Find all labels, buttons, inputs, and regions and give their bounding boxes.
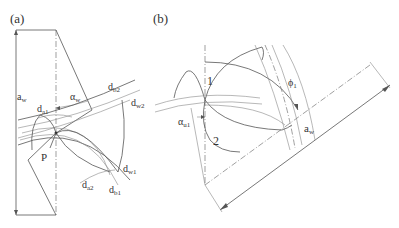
- arrow-icon: [382, 85, 390, 92]
- gear-1-circle-3: [205, 105, 285, 125]
- panel-b-label: (b): [153, 11, 168, 26]
- label-phi1: ϕ1: [288, 77, 297, 90]
- label-p: P: [41, 151, 47, 163]
- label-da1: da1: [37, 103, 49, 116]
- label-alpha-u1: αu1: [178, 116, 191, 129]
- panel-a: (a) aw αw da1 db: [10, 11, 145, 215]
- pressure-angle-arc: [56, 101, 88, 108]
- arrow-icon: [220, 203, 228, 210]
- label-gear-2: 2: [213, 134, 219, 148]
- label-db2: db2: [108, 81, 121, 94]
- label-da2: da2: [82, 179, 94, 192]
- panel-a-label: (a): [10, 11, 24, 26]
- line-of-action-lower: [28, 160, 56, 215]
- label-db1: db1: [109, 184, 122, 197]
- center-distance-dimension-line: [220, 85, 390, 210]
- gear-1-circle-2: [155, 102, 262, 112]
- arrow-down-icon: [14, 210, 18, 215]
- gear-2-circle-3: [283, 45, 315, 140]
- panel-b: (b) 1 2 ϕ1 αu: [153, 11, 390, 212]
- label-aw: aw: [304, 122, 315, 136]
- tip-circle-1: [22, 128, 110, 175]
- pitch-point-leader: [50, 133, 56, 148]
- tooth-profile-1-flank: [174, 71, 205, 100]
- line-of-action: [191, 108, 205, 185]
- extension-line-lower: [205, 185, 222, 212]
- tip-circle-2: [18, 100, 130, 138]
- label-alpha-w: αw: [70, 91, 81, 104]
- tooth-profile-2-flank: [205, 100, 292, 130]
- extension-line-upper: [370, 62, 390, 88]
- label-dw2: dw2: [131, 97, 145, 110]
- tooth-profile-2: [203, 100, 240, 152]
- label-gear-1: 1: [207, 74, 213, 88]
- gear-2-circle-1: [255, 45, 290, 150]
- tooth-profile-1: [205, 47, 264, 100]
- pitch-circle-1: [20, 135, 118, 185]
- arrow-up-icon: [14, 30, 18, 35]
- label-aw: aw: [17, 91, 27, 104]
- gear-geometry-diagram: (a) aw αw da1 db: [0, 0, 399, 228]
